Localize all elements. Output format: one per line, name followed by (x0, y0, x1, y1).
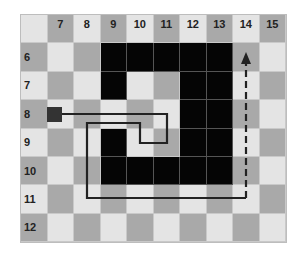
arrow-up-icon (241, 52, 251, 64)
path-solid-line (57, 114, 246, 198)
path-overlay (0, 0, 303, 257)
start-marker (47, 107, 62, 122)
